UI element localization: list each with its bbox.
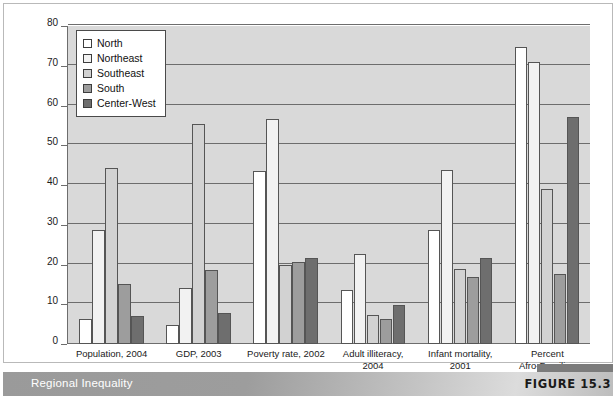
- y-axis: 01020304050607080: [34, 26, 67, 345]
- legend-item: Southeast: [83, 66, 156, 81]
- bar: [567, 117, 580, 344]
- bar: [79, 319, 92, 344]
- bar: [131, 316, 144, 344]
- legend-swatch-icon: [83, 54, 92, 63]
- y-axis-tick-label: 70: [47, 58, 58, 68]
- bar: [367, 315, 380, 344]
- bar: [205, 270, 218, 344]
- bar: [292, 262, 305, 344]
- y-axis-tick-mark: [61, 106, 67, 107]
- bar: [192, 124, 205, 344]
- bar: [105, 168, 118, 344]
- bar: [341, 290, 354, 344]
- legend-swatch-icon: [83, 69, 92, 78]
- bar: [441, 170, 454, 344]
- gridline-80: [68, 24, 590, 25]
- x-axis-category-label: Adult illiteracy, 2004: [330, 348, 417, 371]
- bar: [480, 258, 493, 344]
- figure-frame: 01020304050607080 Population, 2004GDP, 2…: [3, 3, 613, 363]
- y-axis-tick-label: 10: [47, 296, 58, 306]
- legend-item-label: Northeast: [97, 53, 143, 64]
- bar: [279, 265, 292, 344]
- figure-number-label: FIGURE 15.3: [524, 377, 611, 391]
- chart-legend: NorthNortheastSoutheastSouthCenter-West: [76, 30, 166, 117]
- legend-item: Center-West: [83, 96, 156, 111]
- figure-container: 01020304050607080 Population, 2004GDP, 2…: [0, 0, 616, 405]
- bar: [118, 284, 131, 344]
- legend-swatch-icon: [83, 39, 92, 48]
- bar: [380, 319, 393, 344]
- y-axis-tick-mark: [61, 26, 67, 27]
- y-axis-tick-label: 30: [47, 217, 58, 227]
- bar: [467, 277, 480, 344]
- bar: [515, 47, 528, 344]
- legend-item-label: South: [97, 83, 124, 94]
- bar: [179, 288, 192, 344]
- bar: [92, 230, 105, 344]
- bar: [305, 258, 318, 344]
- x-axis-category-label: GDP, 2003: [155, 348, 242, 360]
- bar: [166, 325, 179, 344]
- y-axis-tick-label: 60: [47, 98, 58, 108]
- y-axis-tick-label: 80: [47, 18, 58, 28]
- bar: [528, 62, 541, 344]
- y-axis-tick-label: 20: [47, 257, 58, 267]
- bar-group: [155, 26, 242, 344]
- bar: [554, 274, 567, 344]
- bar: [253, 171, 266, 344]
- bar-group: [242, 26, 329, 344]
- bar: [454, 269, 467, 344]
- legend-item: North: [83, 36, 156, 51]
- x-axis-category-label: Population, 2004: [68, 348, 155, 360]
- bar-group: [417, 26, 504, 344]
- bar: [393, 305, 406, 344]
- y-axis-tick-mark: [61, 304, 67, 305]
- y-axis-tick-mark: [61, 145, 67, 146]
- y-axis-tick-mark: [61, 185, 67, 186]
- y-axis-tick-mark: [61, 225, 67, 226]
- bar-group: [330, 26, 417, 344]
- bar: [428, 230, 441, 344]
- bar: [541, 189, 554, 344]
- y-axis-tick-mark: [61, 66, 67, 67]
- legend-item: Northeast: [83, 51, 156, 66]
- legend-swatch-icon: [83, 84, 92, 93]
- y-axis-tick-label: 50: [47, 137, 58, 147]
- y-axis-tick-mark: [61, 265, 67, 266]
- legend-item-label: North: [97, 38, 123, 49]
- bar: [218, 313, 231, 344]
- y-axis-tick-mark: [61, 344, 67, 345]
- y-axis-tick-label: 40: [47, 177, 58, 187]
- x-axis-category-label: Poverty rate, 2002: [242, 348, 329, 360]
- figure-title: Regional Inequality: [31, 377, 133, 389]
- legend-item-label: Center-West: [97, 98, 156, 109]
- y-axis-tick-label: 0: [52, 336, 58, 346]
- bar-group: [504, 26, 591, 344]
- legend-swatch-icon: [83, 99, 92, 108]
- legend-item: South: [83, 81, 156, 96]
- legend-item-label: Southeast: [97, 68, 144, 79]
- x-axis-category-label: Infant mortality, 2001: [417, 348, 504, 371]
- bar: [354, 254, 367, 344]
- bar: [266, 119, 279, 344]
- figure-caption-banner: Regional Inequality: [3, 372, 613, 396]
